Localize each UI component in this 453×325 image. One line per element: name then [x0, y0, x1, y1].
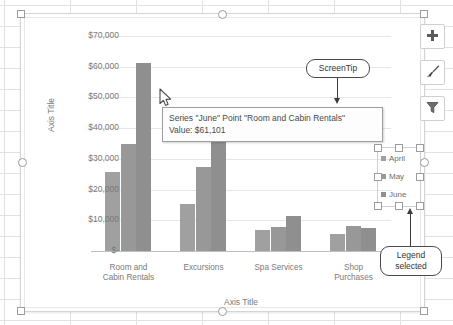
legend-item-label: May [389, 172, 404, 181]
chart-handle-top-right[interactable] [420, 10, 428, 18]
screentip-tooltip: Series "June" Point "Room and Cabin Rent… [162, 107, 383, 142]
bar-april-1[interactable] [180, 204, 195, 251]
bar-may-3[interactable] [346, 226, 361, 251]
chart-elements-button[interactable] [420, 24, 445, 49]
x-axis-category-label: Room andCabin Rentals [91, 263, 166, 283]
legend-handle-bottom-center[interactable] [395, 202, 403, 210]
chart-filters-button[interactable] [420, 96, 445, 121]
y-axis-tick-label: $20,000 [57, 185, 119, 194]
y-axis-tick-label: $30,000 [57, 154, 119, 163]
y-axis-tick-label: $70,000 [57, 31, 119, 40]
category-label-line: Cabin Rentals [91, 273, 166, 283]
y-axis-tick-label: $50,000 [57, 92, 119, 101]
legend-swatch-icon [381, 156, 386, 161]
sheet-gridline-horizontal [0, 5, 453, 6]
screentip-callout-arrow-head [334, 98, 340, 104]
bar-june-1[interactable] [211, 127, 226, 251]
legend-handle-top-left[interactable] [374, 144, 382, 152]
legend-handle-middle-right[interactable] [416, 173, 424, 181]
plus-icon [426, 28, 439, 46]
y-axis-tick-label: $40,000 [57, 123, 119, 132]
sheet-gridline-horizontal [0, 320, 453, 321]
category-label-line: Excursions [166, 263, 241, 273]
chart-legend[interactable]: AprilMayJune [377, 147, 421, 207]
legend-item-label: June [389, 190, 406, 199]
screentip-line-2: Value: $61,101 [169, 124, 376, 136]
chart-handle-middle-left[interactable] [18, 158, 27, 167]
chart-handle-bottom-center[interactable] [218, 307, 227, 316]
category-label-line: Spa Services [241, 263, 316, 273]
legend-item-label: April [389, 154, 405, 163]
y-axis-tick-label: $- [57, 246, 119, 255]
category-axis-line [91, 251, 391, 252]
chart-object[interactable]: Axis Title Axis Title Series "June" Poin… [20, 13, 425, 312]
x-axis-category-label: Excursions [166, 263, 241, 273]
chart-handle-bottom-left[interactable] [17, 307, 25, 315]
legend-item-april[interactable]: April [381, 154, 405, 163]
chart-handle-top-center[interactable] [218, 10, 227, 19]
legend-handle-bottom-right[interactable] [416, 202, 424, 210]
x-axis-title[interactable]: Axis Title [91, 297, 391, 307]
y-axis-title[interactable]: Axis Title [46, 98, 56, 132]
y-axis-tick-label: $10,000 [57, 215, 119, 224]
legend-swatch-icon [381, 192, 386, 197]
screentip-callout-arrow-line [337, 76, 338, 99]
bar-may-1[interactable] [196, 167, 211, 251]
legend-selected-callout: Legend selected [380, 246, 442, 276]
legend-handle-middle-left[interactable] [374, 173, 382, 181]
screentip-line-1: Series "June" Point "Room and Cabin Rent… [169, 112, 376, 124]
brush-icon [426, 64, 440, 82]
legend-callout-line-2: selected [395, 261, 427, 272]
legend-callout-arrow-line [410, 214, 411, 246]
y-axis-tick-label: $60,000 [57, 62, 119, 71]
chart-handle-middle-right[interactable] [420, 158, 429, 167]
funnel-icon [426, 100, 439, 118]
bar-april-2[interactable] [255, 230, 270, 251]
bar-june-2[interactable] [286, 216, 301, 251]
bar-april-3[interactable] [330, 234, 345, 251]
bar-june-0[interactable] [136, 63, 151, 251]
legend-item-june[interactable]: June [381, 190, 406, 199]
legend-handle-top-right[interactable] [416, 144, 424, 152]
category-label-line: Room and [91, 263, 166, 273]
chart-handle-top-left[interactable] [17, 10, 25, 18]
mouse-cursor-icon [159, 88, 172, 111]
legend-handle-bottom-left[interactable] [374, 202, 382, 210]
sheet-gridline-vertical [4, 0, 5, 325]
x-axis-category-label: Spa Services [241, 263, 316, 273]
gridline [91, 36, 391, 37]
bar-june-3[interactable] [361, 228, 376, 251]
chart-handle-bottom-right[interactable] [420, 307, 428, 315]
chart-styles-button[interactable] [420, 60, 445, 85]
legend-callout-arrow-head [407, 208, 413, 214]
legend-item-may[interactable]: May [381, 172, 404, 181]
legend-callout-line-1: Legend [397, 250, 425, 261]
bar-may-0[interactable] [121, 144, 136, 252]
legend-handle-top-center[interactable] [395, 144, 403, 152]
screentip-callout: ScreenTip [306, 59, 370, 78]
category-label-line: Purchases [316, 273, 391, 283]
bar-may-2[interactable] [271, 227, 286, 251]
